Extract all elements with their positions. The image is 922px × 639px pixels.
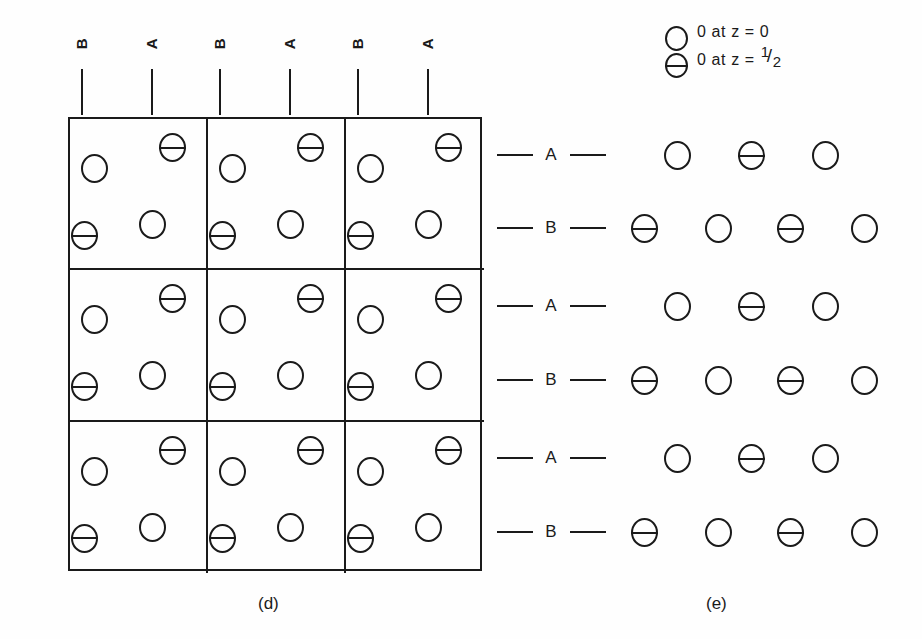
caption-panel-d: (d): [258, 595, 279, 612]
atom-open-circle: [664, 141, 691, 170]
atom-barred-circle: [159, 284, 186, 313]
fraction-denominator: 2: [773, 54, 782, 69]
atom-open-circle: [81, 305, 108, 334]
atom-barred-circle: [71, 372, 98, 401]
atom-barred-circle: [71, 524, 98, 553]
atom-barred-circle: [347, 372, 374, 401]
unit-cell: [208, 422, 346, 573]
unit-cell: [70, 119, 208, 270]
atom-barred-circle: [435, 436, 462, 465]
atom-open-circle: [415, 210, 442, 239]
layer-dash-right: [570, 531, 606, 533]
barred-circle-icon: [665, 53, 688, 78]
layer-dash-right: [570, 457, 606, 459]
layer-dash-right: [570, 379, 606, 381]
atom-barred-circle: [297, 284, 324, 313]
layer-dash-right: [570, 154, 606, 156]
atom-barred-circle: [297, 436, 324, 465]
layer-label-b: B: [541, 523, 561, 540]
atom-open-circle: [812, 141, 839, 170]
atom-open-circle: [851, 214, 878, 243]
atom-open-circle: [357, 457, 384, 486]
unit-cell: [346, 270, 484, 421]
atom-barred-circle: [209, 524, 236, 553]
atom-open-circle: [705, 214, 732, 243]
fraction-slash: /: [767, 46, 773, 65]
unit-cell: [346, 422, 484, 573]
atom-open-circle: [357, 305, 384, 334]
legend-label-z-half: 0 at z = 1/2: [697, 51, 782, 68]
atom-barred-circle: [631, 518, 658, 547]
axis-tick-a-2: [289, 69, 291, 115]
atom-barred-circle: [71, 221, 98, 250]
fraction-one-half: 1/2: [760, 51, 782, 67]
panel-d-unit-cell-grid: [68, 117, 482, 571]
axis-tick-b-2: [219, 69, 221, 115]
atom-open-circle: [851, 366, 878, 395]
legend-label-z-half-prefix: 0 at z =: [697, 51, 760, 68]
atom-barred-circle: [435, 133, 462, 162]
layer-label-a: A: [541, 146, 561, 163]
atom-open-circle: [81, 457, 108, 486]
atom-open-circle: [139, 513, 166, 542]
layer-dash-left: [497, 305, 533, 307]
layer-dash-left: [497, 531, 533, 533]
unit-cell: [70, 422, 208, 573]
axis-label-b-3: B: [350, 34, 365, 54]
atom-barred-circle: [738, 444, 765, 473]
atom-open-circle: [357, 154, 384, 183]
atom-barred-circle: [209, 372, 236, 401]
atom-barred-circle: [159, 133, 186, 162]
atom-barred-circle: [297, 133, 324, 162]
layer-dash-right: [570, 305, 606, 307]
layer-label-a: A: [541, 297, 561, 314]
atom-open-circle: [139, 361, 166, 390]
axis-tick-a-3: [427, 69, 429, 115]
atom-open-circle: [139, 210, 166, 239]
unit-cell: [346, 119, 484, 270]
axis-tick-b-1: [81, 69, 83, 115]
atom-barred-circle: [435, 284, 462, 313]
atom-barred-circle: [347, 221, 374, 250]
atom-open-circle: [277, 361, 304, 390]
atom-barred-circle: [738, 292, 765, 321]
axis-label-b-2: B: [212, 34, 227, 54]
layer-label-a: A: [541, 449, 561, 466]
open-circle-icon: [665, 26, 688, 51]
layer-dash-right: [570, 227, 606, 229]
axis-tick-b-3: [357, 69, 359, 115]
atom-open-circle: [705, 366, 732, 395]
atom-open-circle: [415, 513, 442, 542]
caption-panel-e: (e): [706, 595, 727, 612]
unit-cell: [208, 119, 346, 270]
atom-barred-circle: [777, 366, 804, 395]
atom-open-circle: [664, 444, 691, 473]
atom-barred-circle: [738, 141, 765, 170]
atom-barred-circle: [631, 214, 658, 243]
atom-open-circle: [705, 518, 732, 547]
atom-open-circle: [812, 292, 839, 321]
atom-open-circle: [664, 292, 691, 321]
atom-open-circle: [851, 518, 878, 547]
atom-open-circle: [277, 513, 304, 542]
atom-open-circle: [219, 154, 246, 183]
atom-open-circle: [415, 361, 442, 390]
axis-label-a-1: A: [144, 34, 159, 54]
atom-open-circle: [277, 210, 304, 239]
axis-label-b-1: B: [74, 34, 89, 54]
layer-dash-left: [497, 457, 533, 459]
layer-label-b: B: [541, 219, 561, 236]
figure-root: B A B A B A: [0, 0, 922, 639]
axis-label-a-3: A: [420, 34, 435, 54]
legend-label-z0: 0 at z = 0: [697, 24, 769, 40]
layer-dash-left: [497, 154, 533, 156]
axis-tick-a-1: [151, 69, 153, 115]
atom-barred-circle: [777, 518, 804, 547]
atom-open-circle: [219, 305, 246, 334]
unit-cell: [70, 270, 208, 421]
axis-label-a-2: A: [282, 34, 297, 54]
layer-dash-left: [497, 227, 533, 229]
unit-cell: [208, 270, 346, 421]
layer-dash-left: [497, 379, 533, 381]
layer-label-b: B: [541, 371, 561, 388]
